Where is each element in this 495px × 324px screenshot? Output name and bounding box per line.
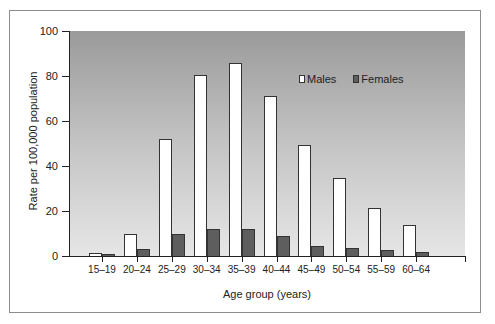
x-tick-mark: [311, 256, 312, 262]
legend-label-males: Males: [307, 73, 336, 85]
bar-males-3: [194, 75, 207, 257]
bar-males-9: [403, 225, 416, 258]
bar-males-5: [264, 96, 277, 257]
males-swatch-icon: [299, 75, 305, 83]
y-tick-mark: [62, 211, 69, 212]
y-tick-label: 20: [20, 205, 58, 217]
x-tick-mark: [381, 256, 382, 262]
legend-item-females: Females: [353, 73, 403, 85]
y-tick-label: 60: [20, 115, 58, 127]
x-axis-title: Age group (years): [69, 288, 465, 300]
females-swatch-icon: [353, 75, 359, 83]
bar-females-5: [277, 236, 290, 257]
bar-males-2: [159, 139, 172, 257]
y-tick-label: 40: [20, 160, 58, 172]
bar-males-4: [229, 63, 242, 258]
y-tick-label: 0: [20, 250, 58, 262]
bar-males-6: [298, 145, 311, 257]
x-tick-mark: [465, 256, 466, 262]
y-tick-label: 80: [20, 70, 58, 82]
x-tick-mark: [207, 256, 208, 262]
bar-females-3: [207, 229, 220, 257]
legend: Males Females: [299, 73, 421, 85]
y-axis-title: Rate per 100,000 population: [27, 66, 39, 216]
bar-females-4: [242, 229, 255, 257]
x-tick-mark: [277, 256, 278, 262]
y-tick-mark: [62, 121, 69, 122]
bar-males-7: [333, 178, 346, 257]
y-tick-mark: [62, 76, 69, 77]
legend-label-females: Females: [361, 73, 403, 85]
legend-item-males: Males: [299, 73, 336, 85]
x-tick-mark: [137, 256, 138, 262]
x-tick-label: 60–64: [396, 264, 436, 275]
y-tick-mark: [62, 166, 69, 167]
y-axis: [69, 31, 70, 257]
x-tick-mark: [416, 256, 417, 262]
bar-males-1: [124, 234, 137, 258]
x-tick-mark: [346, 256, 347, 262]
bar-females-2: [172, 234, 185, 258]
y-tick-mark: [62, 31, 69, 32]
x-tick-mark: [102, 256, 103, 262]
x-tick-mark: [242, 256, 243, 262]
y-tick-label: 100: [20, 25, 58, 37]
bar-males-8: [368, 208, 381, 257]
y-tick-mark: [62, 256, 69, 257]
x-axis: [62, 256, 466, 257]
x-tick-mark: [172, 256, 173, 262]
